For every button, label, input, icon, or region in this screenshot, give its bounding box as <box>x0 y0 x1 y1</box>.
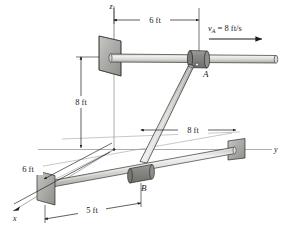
pin-a <box>195 63 198 66</box>
dimension-label-lower-6ft: 6 ft <box>22 164 34 174</box>
point-label-a: A <box>202 69 209 79</box>
lower-rod-right-cap <box>233 147 236 154</box>
guide-upper-plane <box>62 132 240 139</box>
velocity-value-text: = 8 ft/s <box>215 23 241 33</box>
collar-a-right-face <box>204 51 209 68</box>
dimension-label-top-6ft: 6 ft <box>149 15 161 25</box>
link-rod-ab <box>140 65 194 164</box>
dimension-bottom-5ft: 5 ft <box>45 183 141 223</box>
dimension-label-mid-8ft: 8 ft <box>187 125 199 135</box>
collar-b-left-face <box>128 169 133 184</box>
upper-rod-end-cap <box>274 55 278 63</box>
velocity-label: vA = 8 ft/s <box>208 23 242 34</box>
x-axis-label: x <box>12 214 17 223</box>
velocity-annotation: vA = 8 ft/s <box>208 23 262 39</box>
lower-left-wall-plate <box>37 171 55 205</box>
dimension-label-left-8ft: 8 ft <box>75 97 87 107</box>
z-axis-label: z <box>108 2 113 11</box>
collar-b-right-face <box>150 165 155 180</box>
mechanics-diagram: 6 ft z vA = 8 ft/s 8 ft A <box>0 0 284 230</box>
y-axis-label: y <box>273 145 278 154</box>
point-label-b: B <box>141 183 147 193</box>
dimension-top-6ft: 6 ft <box>114 8 199 52</box>
guide-lower-plane <box>38 133 232 167</box>
dimension-label-bottom-5ft: 5 ft <box>86 205 98 215</box>
upper-rod-left-cap <box>109 54 112 62</box>
link-highlight <box>144 65 192 162</box>
figure-root: 6 ft z vA = 8 ft/s 8 ft A <box>0 0 284 230</box>
